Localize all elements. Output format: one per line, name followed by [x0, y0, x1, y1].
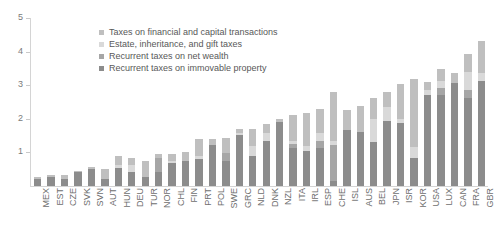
legend-item[interactable]: Taxes on financial and capital transacti… — [99, 27, 329, 38]
legend-item[interactable]: Estate, inheritance, and gift taxes — [99, 39, 329, 50]
x-axis-label: HUN — [122, 188, 132, 208]
bar-segment — [357, 132, 364, 186]
bar-segment — [88, 169, 95, 186]
x-axis-label: ITA — [297, 188, 307, 201]
bar-stack — [464, 54, 471, 186]
y-axis-tick-label: 5 — [18, 11, 23, 24]
bar-segment — [249, 129, 256, 146]
bar-segment — [370, 98, 377, 119]
bar-segment — [330, 92, 337, 141]
bar-stack — [289, 115, 296, 186]
x-axis-label: PRT — [203, 188, 213, 206]
bar-segment — [249, 156, 256, 186]
y-axis-tick: 4 — [0, 52, 30, 53]
x-axis-label: FRA — [471, 188, 481, 206]
y-axis-tick-label: 3 — [18, 78, 23, 91]
y-axis-tick-label: 1 — [18, 145, 23, 158]
x-axis-label: CAN — [458, 188, 468, 207]
x-axis-label: CHE — [337, 188, 347, 207]
bar-segment — [115, 168, 122, 186]
bar-stack — [410, 79, 417, 187]
x-axis-label: SWE — [229, 188, 239, 209]
bar-segment — [397, 123, 404, 187]
bar-stack — [424, 82, 431, 186]
bar-segment — [195, 139, 202, 156]
bar-segment — [410, 158, 417, 186]
x-axis-label: CZE — [68, 188, 78, 206]
bar-stack — [222, 138, 229, 186]
legend-item-label: Recurrent taxes on immovable property — [109, 63, 267, 74]
x-axis-label: USA — [431, 188, 441, 207]
bar-segment — [383, 92, 390, 107]
bar-segment — [195, 159, 202, 186]
bar-segment — [263, 124, 270, 133]
bar-segment — [128, 165, 135, 172]
bar-segment — [437, 81, 444, 89]
bar-segment — [464, 98, 471, 186]
bar-segment — [74, 172, 81, 186]
bar-stack — [101, 169, 108, 186]
bar-stack — [34, 177, 41, 186]
legend-swatch-icon — [99, 66, 104, 71]
bar-segment — [289, 148, 296, 186]
bar-segment — [142, 161, 149, 177]
x-axis-label: TUR — [149, 188, 159, 207]
bar-stack — [195, 139, 202, 186]
bar-segment — [142, 177, 149, 186]
x-axis-label: LUX — [444, 188, 454, 206]
x-axis-label: NZL — [283, 188, 293, 205]
y-axis-tick: 3 — [0, 85, 30, 86]
bar-stack — [88, 167, 95, 186]
bar-segment — [437, 69, 444, 81]
x-axis-label: CHL — [176, 188, 186, 206]
bar-segment — [236, 135, 243, 186]
bar-stack — [155, 154, 162, 186]
bar-segment — [478, 73, 485, 81]
bar-segment — [478, 81, 485, 186]
bar-stack — [478, 41, 485, 186]
bar-segment — [303, 151, 310, 186]
x-axis-label: AUS — [364, 188, 374, 207]
bar-segment — [155, 172, 162, 186]
bar-segment — [128, 158, 135, 165]
bar-segment — [182, 161, 189, 186]
bar-stack — [142, 161, 149, 186]
bar-segment — [330, 145, 337, 181]
bar-segment — [464, 72, 471, 89]
bar-stack — [357, 106, 364, 186]
bar-segment — [424, 82, 431, 90]
bar-segment — [222, 161, 229, 186]
bar-segment — [263, 133, 270, 141]
legend-item-label: Taxes on financial and capital transacti… — [109, 27, 278, 38]
chart-legend: Taxes on financial and capital transacti… — [99, 27, 329, 75]
bar-segment — [370, 119, 377, 142]
legend-item[interactable]: Recurrent taxes on net wealth — [99, 51, 329, 62]
legend-item[interactable]: Recurrent taxes on immovable property — [99, 63, 329, 74]
x-axis-label: SVN — [95, 188, 105, 207]
bar-segment — [182, 152, 189, 161]
bar-stack — [236, 129, 243, 186]
bar-stack — [209, 139, 216, 186]
bar-stack — [182, 152, 189, 186]
bar-stack — [343, 110, 350, 186]
bar-stack — [276, 119, 283, 186]
bar-stack — [316, 109, 323, 186]
bar-segment — [343, 130, 350, 186]
x-axis-label: GRC — [243, 188, 253, 208]
bar-stack — [397, 84, 404, 186]
bar-segment — [370, 142, 377, 186]
x-axis-label: ISR — [404, 188, 414, 203]
bar-stack — [249, 129, 256, 186]
bar-segment — [168, 154, 175, 161]
bar-segment — [410, 147, 417, 158]
y-axis-tick: 2 — [0, 119, 30, 120]
bar-stack — [451, 73, 458, 186]
bar-stack — [437, 69, 444, 186]
bar-stack — [330, 92, 337, 186]
bar-segment — [451, 83, 458, 186]
bar-segment — [115, 156, 122, 165]
y-axis-tick-mark — [26, 119, 30, 120]
bar-segment — [47, 177, 54, 186]
x-axis-label: NLD — [256, 188, 266, 206]
bar-segment — [289, 115, 296, 141]
